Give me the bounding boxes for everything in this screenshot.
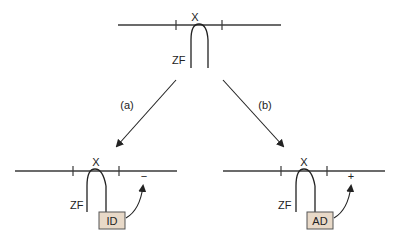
zinc-finger-a (87, 169, 106, 212)
zinc-finger-diagram: X ZF (a) (b) X ZF ID − X ZF AD + (0, 0, 397, 243)
activation-panel: X ZF AD + (223, 156, 385, 229)
locus-label-top: X (191, 11, 199, 23)
repression-panel: X ZF ID − (15, 156, 177, 229)
zinc-finger-top (191, 24, 208, 68)
effect-arrow-b (334, 186, 351, 218)
effect-sign-plus: + (348, 170, 354, 182)
domain-label-ad: AD (312, 215, 327, 227)
locus-label-a: X (92, 156, 100, 168)
factor-label-b: ZF (278, 199, 292, 211)
effect-arrow-a (126, 186, 143, 218)
factor-label-top: ZF (172, 54, 186, 66)
domain-label-id: ID (107, 215, 118, 227)
top-dna-group: X ZF (118, 11, 281, 68)
branch-label-b: (b) (258, 99, 271, 111)
locus-label-b: X (300, 156, 308, 168)
factor-label-a: ZF (70, 199, 84, 211)
branch-label-a: (a) (120, 99, 133, 111)
branch-arrow-a (117, 80, 176, 146)
zinc-finger-b (296, 169, 315, 212)
effect-sign-minus: − (141, 170, 147, 182)
branch-arrow-b (223, 80, 283, 146)
